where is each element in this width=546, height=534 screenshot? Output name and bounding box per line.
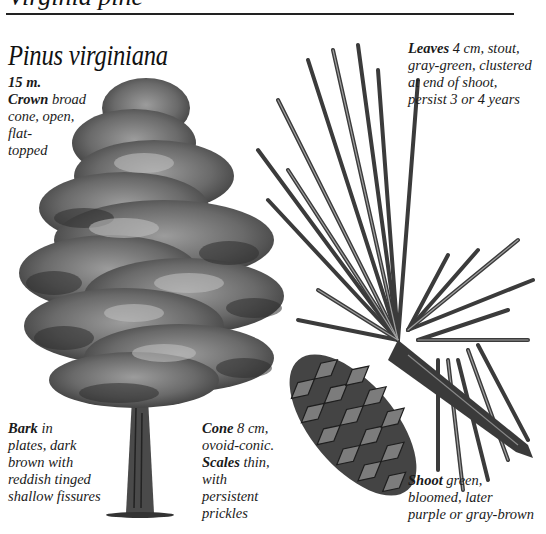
leaves-text-2: gray-green, clustered	[408, 57, 532, 73]
shoot-text-3: purple or gray-brown	[408, 506, 534, 522]
bark-term: Bark	[8, 420, 38, 436]
crown-text-4: topped	[8, 142, 47, 158]
bark-text-1: in	[41, 420, 52, 436]
cone-text-1: 8 cm,	[237, 420, 268, 436]
height-annotation: 15 m.	[8, 74, 41, 91]
crown-text-3: flat-	[8, 125, 32, 141]
bark-annotation: Bark in plates, dark brown with reddish …	[8, 420, 128, 505]
partial-heading: Virginia pine	[8, 0, 143, 12]
leaves-text-1: 4 cm, stout,	[453, 40, 520, 56]
header-divider	[6, 13, 514, 15]
shoot-text-2: bloomed, later	[408, 489, 493, 505]
cone-term: Cone	[202, 420, 233, 436]
cone-text-2: ovoid-conic.	[202, 437, 274, 453]
leaves-text-4: persist 3 or 4 years	[408, 91, 520, 107]
leaves-annotation: Leaves 4 cm, stout, gray-green, clustere…	[408, 40, 546, 108]
cone-annotation: Cone 8 cm, ovoid-conic. Scales thin, wit…	[202, 420, 292, 522]
bark-text-2: plates, dark	[8, 437, 76, 453]
scales-text-2: with	[202, 471, 227, 487]
crown-text-2: cone, open,	[8, 108, 74, 124]
shoot-term: Shoot	[408, 472, 443, 488]
scales-text-4: prickles	[202, 505, 248, 521]
bark-text-4: reddish tinged	[8, 471, 91, 487]
crown-annotation: Crown broad cone, open, flat- topped	[8, 91, 108, 159]
shoot-illustration	[248, 40, 546, 520]
crown-text-1: broad	[52, 91, 86, 107]
leaves-term: Leaves	[408, 40, 449, 56]
scales-term: Scales	[202, 454, 240, 470]
height-value: 15 m.	[8, 74, 41, 90]
shoot-annotation: Shoot green, bloomed, later purple or gr…	[408, 472, 546, 523]
scales-text-3: persistent	[202, 488, 258, 504]
scales-text-1: thin,	[243, 454, 269, 470]
leaves-text-3: at end of shoot,	[408, 74, 497, 90]
species-title: Pinus virginiana	[8, 38, 168, 72]
shoot-text-1: green,	[446, 472, 482, 488]
bark-text-3: brown with	[8, 454, 73, 470]
bark-text-5: shallow fissures	[8, 488, 101, 504]
crown-term: Crown	[8, 91, 48, 107]
